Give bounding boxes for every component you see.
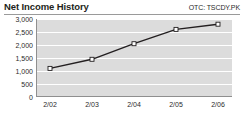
y-axis-tick-label: 2,000 — [15, 42, 33, 49]
net-income-history-chart-widget: Net Income History OTC: TSCDY.PK 05001,0… — [0, 0, 244, 118]
ticker-symbol-label: OTC: TSCDY.PK — [189, 2, 240, 13]
y-axis-tick-label: 1,000 — [15, 68, 33, 75]
data-point-marker — [48, 66, 52, 70]
y-axis-tick-label: 1,500 — [15, 55, 33, 62]
chart-header: Net Income History OTC: TSCDY.PK — [4, 1, 240, 15]
x-axis-tick-label: 2/05 — [169, 100, 183, 109]
x-axis-tick-label: 2/03 — [85, 100, 99, 109]
y-axis-tick-label: 500 — [21, 81, 33, 88]
y-axis-tick-labels: 05001,0001,5002,0002,5003,000 — [0, 19, 33, 97]
data-point-marker — [132, 42, 136, 46]
page-title: Net Income History — [4, 1, 89, 13]
data-point-marker — [90, 57, 94, 61]
x-axis-tick-labels: 2/022/032/042/052/06 — [36, 100, 232, 112]
net-income-line-series — [36, 19, 232, 97]
y-axis-tick-label: 3,000 — [15, 16, 33, 23]
y-axis-tick-label: 2,500 — [15, 29, 33, 36]
x-axis-tick-label: 2/04 — [127, 100, 141, 109]
header-divider — [4, 14, 240, 15]
plot-area — [36, 19, 232, 97]
x-axis-tick-label: 2/06 — [211, 100, 225, 109]
y-axis-tick-label: 0 — [29, 94, 33, 101]
data-point-marker — [174, 27, 178, 31]
data-point-marker — [216, 22, 220, 26]
x-axis-tick-label: 2/02 — [43, 100, 57, 109]
